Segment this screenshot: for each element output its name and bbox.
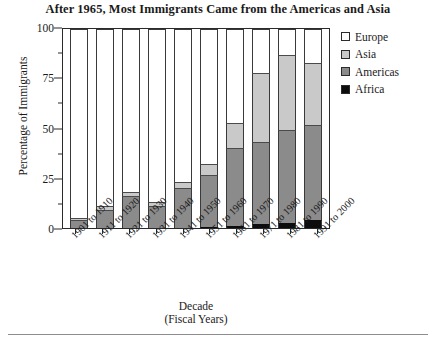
y-tick-label: 75 <box>43 72 55 84</box>
y-axis-tick-marks <box>54 28 62 229</box>
bar-segment-europe <box>70 29 87 218</box>
y-tick-label: 50 <box>43 123 55 135</box>
legend-item[interactable]: Americas <box>341 63 436 81</box>
bar-segment-europe <box>122 29 139 192</box>
bar-segment-europe <box>278 29 295 55</box>
footer-rule <box>8 334 428 335</box>
bar-segment-europe <box>252 29 269 73</box>
legend-item[interactable]: Europe <box>341 28 436 46</box>
x-axis-title-line2: (Fiscal Years) <box>62 313 330 326</box>
bar-segment-asia <box>122 192 139 196</box>
legend-item[interactable]: Asia <box>341 46 436 64</box>
bar-segment-europe <box>226 29 243 123</box>
legend-swatch-africa <box>341 85 350 94</box>
y-tick-mark <box>54 178 62 179</box>
legend-swatch-asia <box>341 50 350 59</box>
bar-segment-asia <box>278 55 295 130</box>
legend-swatch-europe <box>341 32 350 41</box>
y-tick-label: 100 <box>37 22 54 34</box>
chart-title: After 1965, Most Immigrants Came from th… <box>0 2 436 17</box>
legend-label: Africa <box>355 83 384 95</box>
bar-segment-asia <box>174 182 191 188</box>
legend-item[interactable]: Africa <box>341 81 436 99</box>
stacked-bar[interactable] <box>70 29 87 228</box>
x-axis-title: Decade (Fiscal Years) <box>62 300 330 326</box>
bar-segment-europe <box>174 29 191 182</box>
bar-segment-asia <box>252 73 269 143</box>
bar-segment-europe <box>148 29 165 202</box>
x-axis-title-line1: Decade <box>62 300 330 313</box>
chart-figure: After 1965, Most Immigrants Came from th… <box>0 0 436 347</box>
bar-segment-asia <box>226 123 243 149</box>
bar-segment-asia <box>200 164 217 175</box>
legend-label: Asia <box>355 48 376 60</box>
y-tick-mark <box>54 28 62 29</box>
bar-slot <box>66 29 92 228</box>
y-axis-tick-labels: 0255075100 <box>0 0 62 257</box>
y-tick-mark <box>54 128 62 129</box>
y-tick-label: 25 <box>43 173 55 185</box>
legend-label: Americas <box>355 66 399 78</box>
y-tick-mark <box>54 229 62 230</box>
y-tick-mark <box>54 78 62 79</box>
legend-label: Europe <box>355 31 388 43</box>
bar-segment-europe <box>304 29 321 63</box>
bar-segment-europe <box>96 29 113 206</box>
legend-swatch-americas <box>341 67 350 76</box>
bar-segment-europe <box>200 29 217 164</box>
bar-segment-asia <box>304 63 321 125</box>
legend: EuropeAsiaAmericasAfrica <box>341 28 436 98</box>
